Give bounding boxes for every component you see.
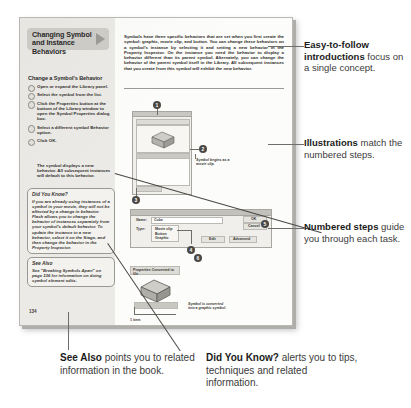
did-you-know-box: Did You Know? If you are already using i… (27, 188, 115, 254)
see-also-heading: See Also (32, 261, 114, 266)
book-page: Changing Symbol and Instance Behaviors C… (19, 17, 293, 326)
section-title-block: Changing Symbol and Instance Behaviors (27, 28, 109, 50)
dialog-edit-button[interactable]: Edit (201, 236, 225, 243)
annotation-rule-numbered-steps (268, 228, 304, 229)
annotation-rule-see-also (68, 312, 69, 350)
properties-header: Properties Converted to file (130, 266, 180, 275)
leader-line (157, 109, 158, 115)
illustration-caption-2: Symbol is converted into a graphic symbo… (188, 302, 230, 311)
edit-label: Edit (209, 237, 216, 241)
leader-line (195, 154, 196, 159)
page-title: Changing Symbol and Instance Behaviors (32, 31, 98, 56)
callout-number-5: 5 (261, 220, 269, 228)
callout-number-1: 1 (153, 101, 161, 109)
annotation-illustrations: Illustrations match the numbered steps. (304, 137, 408, 160)
did-you-know-heading: Did You Know? (32, 192, 114, 197)
triangle-arrow-icon (96, 33, 105, 45)
annotation-bold: Did You Know? (206, 352, 279, 363)
step-text: Open or expand the Library panel. (37, 84, 114, 89)
annotation-numbered-steps: Numbered steps guide you through each ta… (304, 221, 408, 244)
step-text: Click OK. (37, 138, 114, 143)
leader-line (190, 149, 199, 150)
dialog-name-label: Name: (136, 218, 147, 222)
step-text: Select a different symbol Behavior optio… (37, 125, 114, 135)
dialog-name-input[interactable]: Cube (151, 217, 223, 224)
dialog-behavior-options[interactable]: Movie clip Button Graphic (151, 225, 179, 242)
step-bullet-icon (28, 85, 35, 92)
panel-preview (136, 125, 190, 153)
dialog-type-label: Type: (136, 227, 145, 231)
option-graphic[interactable]: Graphic (155, 236, 169, 240)
symbol-properties-dialog: Name: Cube Type: Movie clip Button Graph… (130, 209, 272, 248)
step-result-text: The symbol displays a new behavior. All … (37, 163, 113, 179)
library-status-bar (136, 186, 162, 192)
page-number: 134 (29, 309, 37, 314)
numbered-steps-list: Open or expand the Library panel. Select… (28, 84, 114, 147)
callout-number-6: 6 (194, 254, 202, 262)
library-panel-screenshot (132, 111, 192, 195)
dialog-name-value: Cube (154, 218, 163, 222)
cube-symbol-icon (136, 277, 176, 305)
callout-number-2: 2 (199, 145, 207, 153)
leader-line (191, 230, 192, 244)
leader-line (136, 188, 137, 196)
did-you-know-body: If you are already using instances of a … (32, 199, 110, 250)
cancel-label: Cancel (248, 224, 260, 228)
step-text: Select the symbol from the list. (37, 92, 114, 97)
step-bullet-icon (28, 139, 35, 146)
screenshot-root: Changing Symbol and Instance Behaviors C… (0, 0, 411, 408)
callout-number-4: 4 (187, 246, 195, 254)
intro-paragraph: Symbols have three specific behaviors th… (124, 34, 284, 71)
list-item: Select a different symbol Behavior optio… (28, 125, 114, 135)
annotation-bold: Numbered steps (304, 221, 378, 232)
step-bullet-icon (28, 93, 35, 100)
selection-bar (134, 302, 178, 309)
illustration-caption-1: Symbol begins as a movie clip. (196, 158, 238, 167)
annotation-did-you-know: Did You Know? alerts you to tips, techni… (206, 352, 358, 390)
annotation-bold: Easy-to-follow introductions (304, 39, 369, 62)
step-text: Click the Properties button at the botto… (37, 101, 114, 122)
step-bullet-icon (28, 101, 35, 108)
annotation-rule-illustrations (268, 144, 304, 145)
advanced-label: Advanced (233, 237, 250, 241)
zoom-status: 1 item (130, 318, 140, 322)
cube-symbol-icon (148, 129, 178, 151)
step-bullet-icon (28, 125, 35, 132)
task-heading: Change a Symbol's Behavior (28, 75, 112, 81)
callout-number-3: 3 (132, 196, 140, 204)
list-item: Select the symbol from the list. (28, 92, 114, 97)
list-item: Click OK. (28, 138, 114, 143)
annotation-bold: Illustrations (304, 137, 358, 148)
annotation-easy-to-follow-introductions: Easy-to-follow introductions focus on a … (304, 39, 408, 74)
divider (124, 88, 284, 89)
annotation-see-also: See Also points you to related informati… (60, 352, 200, 377)
dialog-advanced-button[interactable]: Advanced (229, 236, 257, 243)
list-item: Click the Properties button at the botto… (28, 101, 114, 122)
list-item: Open or expand the Library panel. (28, 84, 114, 89)
leader-line (177, 230, 191, 231)
annotation-rule-intro (268, 46, 304, 47)
see-also-body: See "Breaking Symbols Apart" on page 136… (32, 268, 110, 283)
converted-label: Properties Converted to file (133, 268, 179, 277)
annotation-bold: See Also (60, 352, 102, 363)
panel-title-bar (133, 112, 191, 117)
see-also-box: See Also See "Breaking Symbols Apart" on… (27, 257, 115, 287)
ok-label: OK (251, 217, 256, 221)
